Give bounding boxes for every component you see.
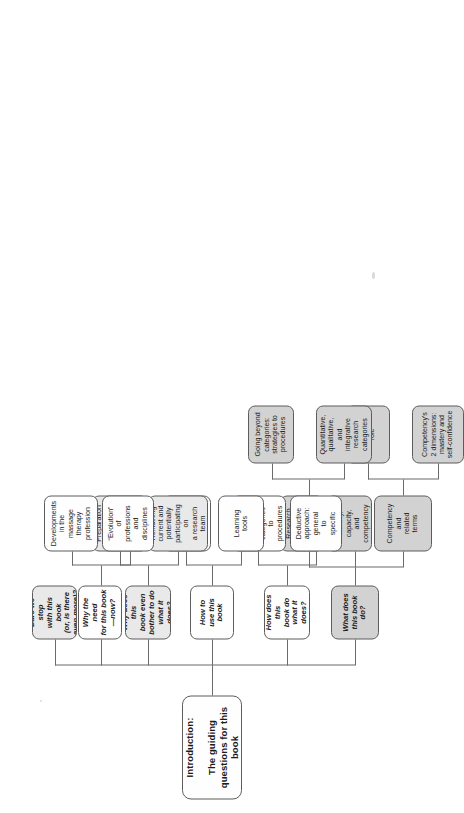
node-label: Why does thisbook evenbother to dowhat i…: [125, 589, 171, 635]
node-label: Remainingcurrent andpotentiallyparticipa…: [149, 499, 208, 547]
connector-b3-out: [148, 565, 149, 585]
node-label: How does thisbook dowhat it does?: [265, 589, 310, 635]
connector-b0-c1: [355, 551, 356, 567]
connector-b1-c1: [258, 551, 259, 565]
node-how-to-use-this-book: How touse thisbook: [190, 585, 234, 639]
node-remaining-current-research-team: Remainingcurrent andpotentiallyparticipa…: [148, 495, 208, 551]
connector-b3-c1: [120, 551, 121, 565]
connector-b0c2-g0: [344, 463, 345, 479]
connector-b0c2-g1: [272, 463, 273, 479]
node-learning-tools: Learningtools: [218, 495, 264, 551]
connector-spine-to-branch-1: [287, 639, 288, 665]
connector-b2-out: [212, 565, 213, 585]
connector-b3-c0: [178, 551, 179, 565]
connector-b1-out: [287, 565, 288, 585]
node-how-does-this-book-do-what-it-does: How does thisbook dowhat it does?: [264, 585, 310, 639]
connector-b4-c1: [72, 551, 73, 565]
connector-b1-bus: [258, 564, 316, 565]
node-label: “Evolution”ofprofessionsanddisciplines: [107, 499, 149, 547]
connector-root-stem: [212, 665, 213, 695]
node-what-does-this-book-do: What doesthis book do?: [331, 585, 379, 639]
node-label: How touse thisbook: [199, 589, 226, 635]
scan-speck: [40, 700, 42, 702]
node-why-the-need-for-this-book-now: Why the needfor this book—now?: [78, 585, 122, 639]
connector-b2-c0: [241, 551, 242, 565]
node-label: Developmentsin themassagetherapyprofessi…: [50, 499, 92, 547]
node-label: Deductiveapproach:generaltospecific: [295, 499, 337, 547]
node-evolution-of-professions-and-disciplines: “Evolution”ofprofessionsanddisciplines: [102, 495, 154, 551]
figure-title-line2: The guiding questions for this book: [206, 699, 240, 795]
connector-spine-to-branch-3: [148, 639, 149, 665]
node-label: Competency's2 dimensions:mastery andself…: [421, 409, 454, 459]
connector-b4-out: [101, 565, 102, 585]
node-label: What doesthis book do?: [342, 589, 369, 635]
node-label: Dare we stopwith this book(or, is theree…: [32, 589, 77, 635]
connector-b2-c1: [186, 551, 187, 565]
connector-b4-bus: [72, 564, 130, 565]
node-going-beyond-categories: Going beyondcategories:strategies toproc…: [248, 405, 294, 463]
connector-spine-to-branch-4: [101, 639, 102, 665]
node-developments-in-massage-therapy: Developmentsin themassagetherapyprofessi…: [44, 495, 98, 551]
node-label: Quantitative,qualitative,andintegrativer…: [319, 409, 369, 459]
node-label: Competencyandrelatedterms: [386, 499, 419, 547]
scan-speck: [372, 272, 375, 279]
connector-spine-to-branch-2: [212, 639, 213, 665]
node-competencys-2-dimensions: Competency's2 dimensions:mastery andself…: [412, 405, 464, 463]
node-label: Learningtools: [233, 499, 250, 547]
connector-b0c0-g1: [368, 463, 369, 479]
node-deductive-approach-general-to-specific: Deductiveapproach:generaltospecific: [290, 495, 342, 551]
connector-b0c2-bus: [272, 478, 344, 479]
connector-spine-to-branch-0: [355, 639, 356, 665]
connector-b1-c0: [316, 551, 317, 565]
node-quantitative-qualitative-integrative: Quantitative,qualitative,andintegrativer…: [316, 405, 372, 463]
connector-b2-bus: [186, 564, 241, 565]
connector-main-spine: [55, 664, 355, 665]
connector-b0c0-g0: [438, 463, 439, 479]
node-label: Why the needfor this book—now?: [82, 589, 118, 635]
node-why-does-this-book-even-bother: Why does thisbook evenbother to dowhat i…: [125, 585, 171, 639]
connector-b4-c0: [130, 551, 131, 565]
connector-spine-to-branch-5: [55, 639, 56, 665]
node-dare-we-stop-with-this-book: Dare we stopwith this book(or, is theree…: [32, 585, 77, 639]
connector-b0c2-out: [309, 479, 310, 495]
connector-b0c0-out: [403, 479, 404, 495]
connector-b0c0-bus: [368, 478, 438, 479]
node-label: Going beyondcategories:strategies toproc…: [254, 409, 287, 459]
connector-b0-out: [355, 567, 356, 585]
connector-b0-bus: [309, 566, 403, 567]
connector-b0-c0: [403, 551, 404, 567]
figure-title-line1: Introduction:: [184, 699, 195, 795]
node-competency-and-related-terms: Competencyandrelatedterms: [374, 495, 432, 551]
figure-title: Introduction: The guiding questions for …: [182, 695, 242, 799]
